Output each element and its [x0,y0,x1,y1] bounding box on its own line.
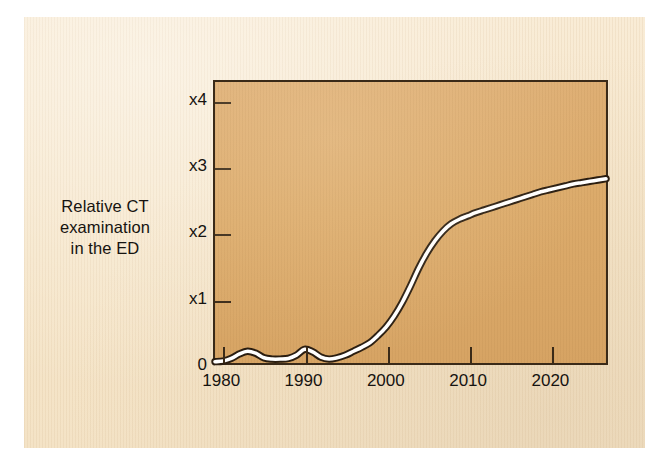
chart-figure: Relative CT examination in the ED 0x1x2x… [0,0,665,468]
y-tick-label-x3: x3 [189,156,207,176]
curve-outline-path [215,179,606,362]
x-tick-2020 [552,347,554,363]
plot-area [213,80,608,365]
y-tick-label-x4: x4 [189,90,207,110]
y-tick-label-x1: x1 [189,289,207,309]
y-tick-x1 [215,301,231,303]
x-tick-2000 [388,347,390,363]
x-tick-label-2000: 2000 [367,371,405,391]
x-axis-tick-labels: 19801990200020102020 [213,371,608,397]
x-tick-label-2010: 2010 [449,371,487,391]
data-curve [215,82,606,363]
curve-fill-path [215,179,606,362]
x-tick-2010 [470,347,472,363]
x-tick-label-1990: 1990 [285,371,323,391]
y-tick-x3 [215,168,231,170]
x-tick-1990 [306,347,308,363]
y-tick-x4 [215,102,231,104]
x-tick-label-1980: 1980 [202,371,240,391]
x-tick-label-2020: 2020 [531,371,569,391]
x-tick-1980 [223,347,225,363]
y-tick-label-x2: x2 [189,222,207,242]
y-axis-tick-labels: 0x1x2x3x4 [160,80,207,365]
y-tick-x2 [215,234,231,236]
